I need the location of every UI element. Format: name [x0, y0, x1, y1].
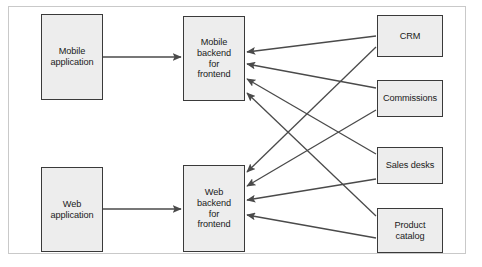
node-label-mobile-application: Mobile application [49, 46, 96, 68]
node-label-web-application: Web application [49, 199, 96, 221]
node-mobile-application[interactable]: Mobile application [41, 14, 103, 100]
node-label-commissions: Commissions [381, 93, 439, 104]
node-label-sales-desks: Sales desks [384, 160, 436, 171]
edge-crm-to-web-bff [247, 47, 376, 172]
edge-crm-to-mobile-bff [247, 36, 376, 52]
node-label-product-catalog: Product catalog [393, 220, 428, 242]
node-commissions[interactable]: Commissions [377, 80, 443, 117]
diagram-canvas: Mobile application Mobile backend for fr… [0, 0, 482, 267]
node-sales-desks[interactable]: Sales desks [377, 147, 443, 184]
edge-commissions-to-web-bff [247, 110, 376, 186]
node-product-catalog[interactable]: Product catalog [377, 208, 443, 253]
edge-product-catalog-to-web-bff [247, 215, 376, 238]
edge-sales-desks-to-mobile-bff [247, 79, 376, 154]
node-label-crm: CRM [398, 31, 423, 42]
node-crm[interactable]: CRM [377, 15, 443, 57]
node-mobile-bff[interactable]: Mobile backend for frontend [183, 16, 245, 101]
edge-product-catalog-to-mobile-bff [247, 93, 376, 216]
node-web-application[interactable]: Web application [41, 167, 103, 252]
node-label-mobile-bff: Mobile backend for frontend [195, 37, 233, 80]
edge-commissions-to-mobile-bff [247, 64, 376, 88]
node-label-web-bff: Web backend for frontend [195, 187, 233, 230]
node-web-bff[interactable]: Web backend for frontend [183, 165, 245, 252]
